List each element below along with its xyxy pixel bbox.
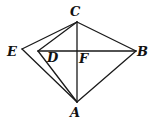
geometry-diagram: C E D F B A — [0, 0, 156, 126]
segment-CE — [22, 22, 77, 49]
segment-CB — [77, 22, 136, 51]
label-D: D — [46, 50, 59, 65]
label-B: B — [136, 44, 148, 59]
label-E: E — [6, 44, 18, 59]
segment-CD — [38, 22, 77, 51]
label-C: C — [70, 4, 81, 19]
label-F: F — [78, 51, 89, 66]
label-A: A — [68, 105, 80, 120]
